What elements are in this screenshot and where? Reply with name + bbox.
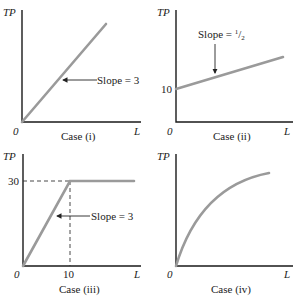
x-axis-label: L: [283, 268, 290, 280]
origin-label: 0: [14, 268, 20, 280]
tp-line: [23, 181, 134, 266]
x-axis-label: L: [133, 268, 140, 280]
tp-curve: [176, 173, 269, 266]
y-axis-label: TP: [3, 150, 16, 162]
slope-annotation: Slope = 3: [97, 74, 140, 86]
origin-label: 0: [167, 268, 173, 280]
tp-line: [176, 57, 283, 89]
panel-caption: Case (i): [61, 130, 96, 143]
axes: [176, 10, 293, 122]
x-axis-label: L: [133, 125, 140, 137]
x-tick-10: 10: [63, 268, 75, 280]
panel-case-ii: TP Slope = 1/2 10 0 L Case (ii): [157, 6, 293, 143]
panel-caption: Case (iv): [211, 283, 251, 296]
tp-figure: TP Slope = 3 0 L Case (i) TP Slope = 1/2…: [0, 0, 297, 298]
y-axis-label: TP: [157, 150, 170, 162]
axes: [176, 154, 293, 266]
origin-label: 0: [13, 125, 19, 137]
panel-case-i: TP Slope = 3 0 L Case (i): [3, 6, 141, 143]
y-tick-30: 30: [8, 175, 20, 187]
origin-label: 0: [167, 125, 173, 137]
y-axis-label: TP: [157, 6, 170, 18]
tp-line: [22, 24, 106, 122]
slope-annotation: Slope = 3: [91, 210, 134, 222]
panel-caption: Case (iii): [59, 283, 100, 296]
y-axis-label: TP: [3, 6, 16, 18]
y-tick-10: 10: [161, 83, 173, 95]
axes: [22, 10, 141, 122]
panel-case-iii: TP Slope = 3 30 0 10 L Case (iii): [3, 150, 141, 296]
panel-caption: Case (ii): [213, 130, 251, 143]
slope-annotation: Slope = 1/2: [198, 28, 245, 42]
panel-case-iv: TP 0 L Case (iv): [157, 150, 293, 296]
x-axis-label: L: [283, 125, 290, 137]
